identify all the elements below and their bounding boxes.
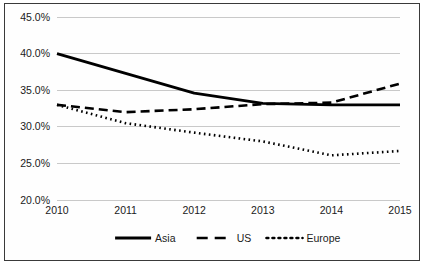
y-axis-tick-label: 35.0%: [20, 84, 50, 96]
chart-legend: AsiaUSEurope: [115, 232, 340, 244]
gridlines: [57, 17, 400, 200]
legend-label-europe: Europe: [307, 232, 341, 244]
y-axis-tick-labels: 45.0%40.0%35.0%30.0%25.0%20.0%: [20, 11, 50, 206]
x-axis-tick-label: 2012: [183, 204, 207, 216]
y-axis-tick-label: 25.0%: [20, 157, 50, 169]
x-axis-tick-label: 2013: [251, 204, 275, 216]
y-axis-tick-label: 40.0%: [20, 47, 50, 59]
x-axis-tick-label: 2010: [45, 204, 69, 216]
data-series-group: [57, 54, 400, 156]
series-line-asia: [57, 54, 400, 105]
x-axis-tick-labels: 201020112012201320142015: [45, 204, 412, 216]
x-axis-tick-label: 2011: [114, 204, 137, 216]
series-line-europe: [57, 105, 400, 156]
y-axis-tick-label: 30.0%: [20, 120, 50, 132]
chart-figure: 45.0%40.0%35.0%30.0%25.0%20.0% 201020112…: [0, 0, 424, 265]
line-chart-plot: 45.0%40.0%35.0%30.0%25.0%20.0% 201020112…: [0, 0, 424, 265]
legend-label-us: US: [237, 232, 252, 244]
legend-label-asia: Asia: [155, 232, 176, 244]
x-axis-tick-label: 2014: [320, 204, 344, 216]
x-axis-tick-label: 2015: [388, 204, 412, 216]
y-axis-tick-label: 45.0%: [20, 11, 50, 23]
